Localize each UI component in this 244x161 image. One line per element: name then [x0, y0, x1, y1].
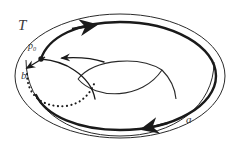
- basepoint-dot: [38, 56, 43, 61]
- surface-label-T: T: [18, 18, 26, 33]
- torus-figure: T p0 b a: [0, 0, 244, 161]
- torus-figure-canvas: [0, 0, 244, 161]
- basepoint-label-subscript: 0: [33, 45, 36, 52]
- torus-outer-outline: [15, 14, 225, 138]
- torus-hole-bottom-arc: [78, 70, 162, 94]
- cycle-b-front-upper: [62, 58, 104, 62]
- torus-hole-tail-arc: [162, 70, 176, 99]
- cycle-label-a: a: [186, 114, 192, 125]
- basepoint-label-p0: p0: [28, 41, 36, 52]
- cycle-b-front: [41, 59, 95, 99]
- cycle-label-b: b: [21, 70, 27, 81]
- torus-hole-top-arc: [78, 61, 162, 79]
